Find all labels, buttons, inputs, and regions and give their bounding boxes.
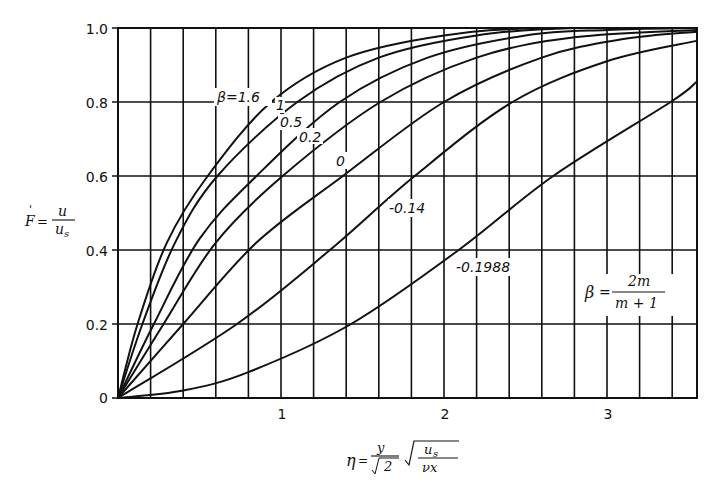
label-beta-minus-0.1988: -0.1988 bbox=[456, 259, 510, 275]
svg-text:0.2: 0.2 bbox=[86, 317, 108, 333]
svg-text:': ' bbox=[29, 203, 32, 216]
svg-text:β: β bbox=[584, 283, 594, 302]
x-axis-ticks: 1 2 3 bbox=[278, 406, 613, 422]
label-beta-0: 0 bbox=[336, 153, 345, 169]
svg-text:0.6: 0.6 bbox=[86, 169, 108, 185]
svg-text:0.8: 0.8 bbox=[86, 95, 108, 111]
svg-text:0.4: 0.4 bbox=[86, 243, 108, 259]
svg-text:s: s bbox=[433, 448, 438, 459]
svg-text:3: 3 bbox=[604, 406, 613, 422]
svg-text:s: s bbox=[64, 228, 69, 239]
falkner-skan-chart: β=1.6 1 0.5 0.2 0 -0.14 -0.1988 β = 2m m… bbox=[0, 0, 717, 497]
label-beta-0.5: 0.5 bbox=[280, 114, 302, 130]
curve-labels: β=1.6 1 0.5 0.2 0 -0.14 -0.1988 bbox=[214, 88, 517, 276]
svg-text:2: 2 bbox=[383, 459, 392, 474]
svg-text:=: = bbox=[37, 214, 48, 229]
svg-text:u: u bbox=[58, 203, 67, 219]
label-beta-0.2: 0.2 bbox=[299, 129, 321, 145]
y-axis-label: F ' = u u s bbox=[24, 203, 75, 239]
label-beta-1: 1 bbox=[276, 97, 285, 113]
svg-text:u: u bbox=[424, 442, 432, 457]
beta-definition: β = 2m m + 1 bbox=[582, 273, 682, 316]
svg-text:u: u bbox=[55, 221, 64, 237]
svg-text:=: = bbox=[358, 454, 368, 468]
svg-text:2m: 2m bbox=[627, 273, 650, 289]
svg-text:2: 2 bbox=[441, 406, 450, 422]
svg-text:1.0: 1.0 bbox=[86, 21, 108, 37]
svg-text:η: η bbox=[346, 451, 356, 470]
svg-text:0: 0 bbox=[99, 390, 108, 406]
label-beta-minus-0.14: -0.14 bbox=[389, 200, 425, 216]
svg-text:m + 1: m + 1 bbox=[615, 295, 658, 311]
svg-text:νx: νx bbox=[422, 460, 438, 475]
label-beta-1.6: β=1.6 bbox=[216, 89, 260, 105]
svg-text:y: y bbox=[376, 440, 385, 455]
curve-beta--0.14 bbox=[118, 41, 697, 398]
curve-beta--0.1988 bbox=[118, 82, 697, 398]
x-axis-label: η = y 2 u s νx bbox=[346, 440, 459, 475]
y-axis-ticks: 0 0.2 0.4 0.6 0.8 1.0 bbox=[86, 21, 108, 406]
svg-text:=: = bbox=[599, 284, 611, 300]
svg-text:1: 1 bbox=[278, 406, 287, 422]
